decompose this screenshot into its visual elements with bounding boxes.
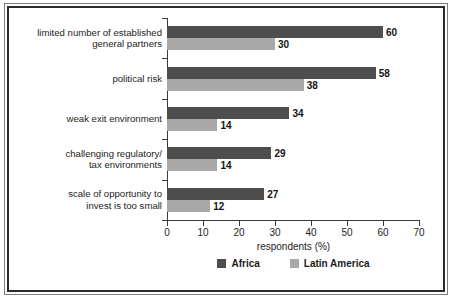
bar-value-label: 14 <box>220 160 231 171</box>
x-axis-tick <box>383 221 384 226</box>
x-axis-tick <box>419 221 420 226</box>
bar-value-label: 29 <box>274 148 285 159</box>
x-axis-tick <box>203 221 204 226</box>
bar <box>167 159 217 171</box>
bar <box>167 26 383 38</box>
y-axis-tick <box>162 58 167 59</box>
bar <box>167 147 271 159</box>
y-axis-tick <box>162 18 167 19</box>
category-label-text: scale of opportunity to invest is too sm… <box>10 188 162 211</box>
x-axis-tick-label: 10 <box>197 227 208 238</box>
x-axis-tick <box>239 221 240 226</box>
chart-figure: limited number of established general pa… <box>0 0 452 299</box>
x-axis-tick <box>347 221 348 226</box>
y-axis-tick <box>162 99 167 100</box>
legend-label: Africa <box>231 258 259 269</box>
x-axis-tick <box>167 221 168 226</box>
category-label-text: political risk <box>10 73 162 85</box>
bar <box>167 119 217 131</box>
y-axis-tick <box>162 180 167 181</box>
bar <box>167 67 376 79</box>
bar-value-label: 12 <box>213 201 224 212</box>
x-axis-tick-label: 70 <box>413 227 424 238</box>
category-label: limited number of established general pa… <box>10 27 162 50</box>
x-axis-tick-label: 50 <box>341 227 352 238</box>
bar-value-label: 30 <box>278 39 289 50</box>
x-axis-tick <box>275 221 276 226</box>
bar <box>167 200 210 212</box>
category-label: challenging regulatory/ tax environments <box>10 148 162 171</box>
x-axis-tick <box>311 221 312 226</box>
bar-value-label: 27 <box>267 189 278 200</box>
category-label: political risk <box>10 73 162 85</box>
legend-item[interactable]: Latin America <box>290 258 370 269</box>
x-axis-tick-label: 30 <box>269 227 280 238</box>
category-label-text: challenging regulatory/ tax environments <box>10 148 162 171</box>
x-axis-tick-label: 60 <box>377 227 388 238</box>
bar <box>167 107 289 119</box>
bar <box>167 188 264 200</box>
y-axis-tick <box>162 139 167 140</box>
x-axis-tick-label: 40 <box>305 227 316 238</box>
bar-value-label: 34 <box>292 108 303 119</box>
bar-value-label: 14 <box>220 120 231 131</box>
category-label-text: limited number of established general pa… <box>10 27 162 50</box>
bar-value-label: 60 <box>386 27 397 38</box>
x-axis-title: respondents (%) <box>167 241 420 252</box>
category-label: scale of opportunity to invest is too sm… <box>10 188 162 211</box>
bar-value-label: 58 <box>379 68 390 79</box>
category-label: weak exit environment <box>10 113 162 125</box>
legend-label: Latin America <box>304 258 370 269</box>
legend-item[interactable]: Africa <box>217 258 259 269</box>
category-label-text: weak exit environment <box>10 113 162 125</box>
legend-swatch-icon <box>290 259 299 268</box>
x-axis-tick-label: 0 <box>164 227 170 238</box>
bar <box>167 79 304 91</box>
chart-legend: AfricaLatin America <box>167 258 420 269</box>
bar-value-label: 38 <box>307 80 318 91</box>
legend-swatch-icon <box>217 259 226 268</box>
x-axis-tick-label: 20 <box>233 227 244 238</box>
bar <box>167 38 275 50</box>
